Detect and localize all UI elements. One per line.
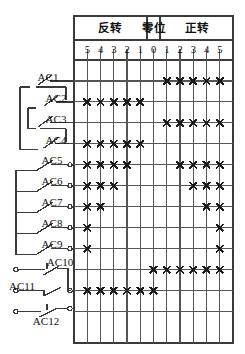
- contact-label-ac3: AC3: [39, 114, 73, 125]
- column-number: 4: [94, 45, 108, 56]
- column-number: 0: [147, 45, 161, 56]
- column-number: 5: [80, 45, 94, 56]
- column-number: 1: [160, 45, 174, 56]
- contact-label-ac2: AC2: [39, 93, 73, 104]
- column-number: 4: [200, 45, 214, 56]
- column-number: 1: [133, 45, 147, 56]
- contact-label-ac11: AC11: [5, 281, 39, 292]
- contact-label-ac4: AC4: [39, 135, 73, 146]
- column-number: 5: [213, 45, 227, 56]
- column-number: 2: [173, 45, 187, 56]
- contact-label-ac12: AC12: [29, 316, 63, 327]
- contact-label-ac6: AC6: [35, 176, 69, 187]
- contact-label-ac9: AC9: [35, 239, 69, 250]
- column-number: 3: [186, 45, 200, 56]
- contact-label-ac5: AC5: [35, 155, 69, 166]
- contact-label-ac7: AC7: [35, 197, 69, 208]
- header-label-zero: 零位: [142, 23, 166, 34]
- contact-label-ac1: AC1: [31, 72, 65, 83]
- contact-label-ac10: AC10: [43, 257, 77, 268]
- header-label-forward: 正转: [185, 23, 209, 34]
- header-label-reverse: 反转: [98, 23, 122, 34]
- column-number: 3: [107, 45, 121, 56]
- contact-label-ac8: AC8: [35, 218, 69, 229]
- cam-controller-contact-diagram: 反转 零位 正转 54321012345 AC1AC2AC3AC4AC5AC6A…: [0, 0, 245, 354]
- grid-lines: [74, 49, 233, 343]
- column-number: 2: [120, 45, 134, 56]
